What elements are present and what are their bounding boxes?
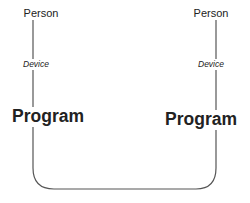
right-person-label: Person bbox=[194, 8, 229, 19]
bottom-u-connector bbox=[33, 126, 216, 189]
left-device-label: Device bbox=[23, 59, 49, 70]
right-program-label: Program bbox=[165, 110, 237, 130]
connector-lines bbox=[0, 0, 250, 203]
left-person-label: Person bbox=[24, 8, 59, 19]
right-device-label: Device bbox=[198, 59, 224, 70]
left-program-label: Program bbox=[12, 107, 84, 127]
